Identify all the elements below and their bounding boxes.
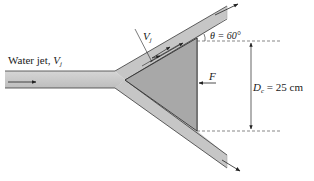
- force-label: F: [208, 70, 216, 82]
- theta-arc: [204, 34, 205, 41]
- theta-label: θ = 60°: [210, 30, 241, 41]
- jet-cone-diagram: Water jet, Vj Vj θ = 60° F Dc = 25 cm: [0, 0, 314, 181]
- water-jet-label: Water jet, Vj: [8, 54, 62, 68]
- incoming-jet: [5, 71, 125, 88]
- vj-label: Vj: [143, 30, 152, 44]
- diameter-label: Dc = 25 cm: [252, 81, 303, 95]
